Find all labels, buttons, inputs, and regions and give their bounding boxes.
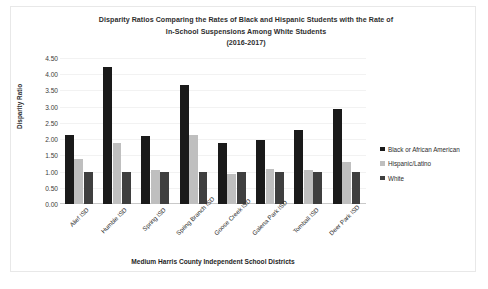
bar	[256, 140, 265, 204]
bar-group	[65, 58, 93, 204]
bar	[103, 67, 112, 204]
x-axis-title: Medium Harris County Independent School …	[60, 258, 366, 265]
bar	[266, 169, 275, 204]
legend-label: Black or African American	[388, 146, 460, 153]
plot-area	[60, 58, 366, 204]
bar	[227, 174, 236, 204]
legend-label: White	[388, 175, 404, 182]
bar	[218, 143, 227, 204]
bar	[113, 143, 122, 204]
bar	[180, 85, 189, 204]
chart-frame: Disparity Ratios Comparing the Rates of …	[10, 6, 476, 272]
legend-item[interactable]: Hispanic/Latino	[380, 160, 482, 168]
chart-title-line-3: (2016-2017)	[51, 38, 441, 50]
bar-group	[180, 58, 208, 204]
bar	[84, 172, 93, 204]
bar-group	[103, 58, 131, 204]
y-axis-tick-label: 1.00	[31, 168, 58, 175]
bar	[313, 172, 322, 204]
y-axis-tick-label: 2.00	[31, 136, 58, 143]
x-axis-tick-label: Alief ISD	[60, 206, 90, 236]
x-axis-tick-label: Spring ISD	[136, 206, 166, 236]
y-axis-tick-label: 0.50	[31, 184, 58, 191]
bar	[160, 172, 169, 204]
legend-item[interactable]: White	[380, 174, 482, 182]
x-axis-tick-label: Spring Branch ISD	[174, 206, 204, 236]
y-axis-tick-label: 0.00	[31, 201, 58, 208]
bar	[342, 162, 351, 204]
chart-legend: Black or African AmericanHispanic/Latino…	[380, 145, 482, 189]
bar	[65, 135, 74, 204]
bar	[141, 136, 150, 204]
x-axis-tick-label: Galena Park ISD	[251, 206, 281, 236]
bar	[122, 172, 131, 204]
x-axis-tick-label: Humble ISD	[98, 206, 128, 236]
bar-group	[294, 58, 322, 204]
x-axis-tick-label: Deer Park ISD	[327, 206, 357, 236]
bar	[352, 172, 361, 204]
y-axis-tick-label: 2.50	[31, 119, 58, 126]
bar	[189, 135, 198, 204]
legend-label: Hispanic/Latino	[388, 160, 431, 167]
bar-group	[218, 58, 246, 204]
x-axis-tick-labels: Alief ISDHumble ISDSpring ISDSpring Bran…	[60, 206, 366, 254]
y-axis-tick-label: 1.50	[31, 152, 58, 159]
bar	[333, 109, 342, 204]
y-axis-tick-label: 4.00	[31, 71, 58, 78]
bar-group	[256, 58, 284, 204]
chart-title: Disparity Ratios Comparing the Rates of …	[51, 15, 441, 50]
bar-group	[141, 58, 169, 204]
y-axis-tick-label: 3.00	[31, 103, 58, 110]
legend-swatch-icon	[380, 147, 385, 152]
y-axis-tick-labels: 4.504.003.503.002.502.001.501.000.500.00	[31, 58, 58, 204]
legend-swatch-icon	[380, 176, 385, 181]
y-axis-tick-label: 3.50	[31, 87, 58, 94]
bar	[294, 130, 303, 204]
y-axis-title: Disparity Ratio	[16, 62, 23, 152]
legend-item[interactable]: Black or African American	[380, 145, 482, 153]
chart-title-line-2: In-School Suspensions Among White Studen…	[51, 27, 441, 39]
bar	[74, 159, 83, 204]
y-axis-tick-label: 4.50	[31, 55, 58, 62]
bar-group	[333, 58, 361, 204]
bar	[304, 170, 313, 204]
x-axis-tick-label: Goose Creek ISD	[213, 206, 243, 236]
chart-title-line-1: Disparity Ratios Comparing the Rates of …	[51, 15, 441, 27]
x-axis-tick-label: Tomball ISD	[289, 206, 319, 236]
legend-swatch-icon	[380, 161, 385, 166]
bar	[151, 170, 160, 204]
